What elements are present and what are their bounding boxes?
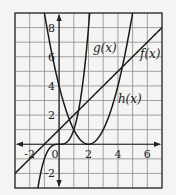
h-label: h(x) <box>118 92 142 106</box>
f-label: f(x) <box>139 47 161 61</box>
x-tick-label: -2 <box>24 148 35 161</box>
x-tick-label: 2 <box>85 148 92 161</box>
y-tick-label: 2 <box>48 109 55 122</box>
y-tick-label: 8 <box>48 22 55 35</box>
g-label: g(x) <box>93 41 117 55</box>
x-tick-label: 4 <box>114 148 121 161</box>
x-tick-label: 6 <box>144 148 151 161</box>
y-tick-label: -2 <box>44 167 55 180</box>
y-tick-label: 4 <box>48 80 55 93</box>
function-graph: -20246-22468 g(x)f(x)h(x) <box>0 0 176 195</box>
y-tick-label: 6 <box>48 51 55 64</box>
x-tick-label: 0 <box>52 148 59 161</box>
